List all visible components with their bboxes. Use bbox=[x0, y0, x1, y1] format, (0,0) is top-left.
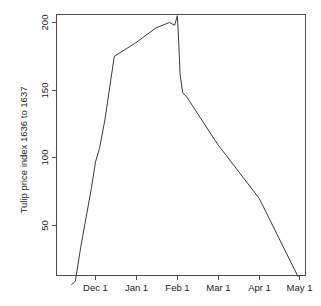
x-axis-ticks bbox=[96, 276, 300, 280]
y-axis-tick-labels: 200 150 100 50 bbox=[39, 15, 50, 231]
y-tick-label-200: 200 bbox=[39, 15, 50, 31]
price-index-line bbox=[71, 16, 298, 285]
x-axis-tick-labels: Dec 1 Jan 1 Feb 1 Mar 1 Apr 1 May 1 bbox=[83, 282, 312, 293]
x-tick-label-dec-1: Dec 1 bbox=[83, 282, 108, 293]
y-tick-label-50: 50 bbox=[39, 220, 50, 231]
x-tick-label-feb-1: Feb 1 bbox=[165, 282, 189, 293]
tulip-price-chart: 200 150 100 50 Tulip price index 1636 to… bbox=[0, 0, 321, 306]
x-tick-label-may-1: May 1 bbox=[287, 282, 313, 293]
y-tick-label-100: 100 bbox=[39, 150, 50, 166]
y-tick-label-150: 150 bbox=[39, 83, 50, 99]
x-tick-label-apr-1: Apr 1 bbox=[248, 282, 271, 293]
x-tick-label-jan-1: Jan 1 bbox=[125, 282, 148, 293]
x-tick-label-mar-1: Mar 1 bbox=[206, 282, 230, 293]
y-axis-ticks bbox=[52, 23, 56, 226]
plot-frame bbox=[57, 15, 306, 276]
chart-canvas: 200 150 100 50 Tulip price index 1636 to… bbox=[0, 0, 321, 306]
y-axis-title: Tulip price index 1636 to 1637 bbox=[18, 87, 29, 214]
